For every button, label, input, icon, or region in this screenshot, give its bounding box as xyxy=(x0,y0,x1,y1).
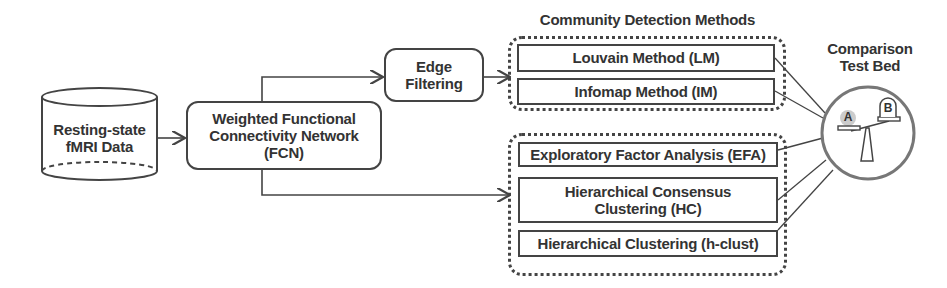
fcn-node: Weighted Functional Connectivity Network… xyxy=(186,101,382,170)
comparison-title-line2: Test Bed xyxy=(840,57,901,74)
edge-filtering-line1: Edge xyxy=(416,58,452,75)
edge-filtering-line2: Filtering xyxy=(405,75,462,92)
fcn-line1: Weighted Functional xyxy=(212,110,355,127)
data-source-line2: fMRI Data xyxy=(66,138,133,155)
fcn-line2: Connectivity Network xyxy=(209,127,358,144)
scale-label-b: B xyxy=(881,102,895,116)
method-infomap: Infomap Method (IM) xyxy=(517,78,775,105)
fcn-line3: (FCN) xyxy=(264,144,304,161)
edge-filtering-node: Edge Filtering xyxy=(384,48,484,102)
method-hc-line1: Hierarchical Consensus xyxy=(565,183,732,200)
method-hc-line2: Clustering (HC) xyxy=(595,200,702,217)
scale-label-a: A xyxy=(841,111,855,125)
edge-fcn-to-other-methods xyxy=(262,170,510,195)
data-source-label: Resting-state fMRI Data xyxy=(42,110,157,166)
method-hclust: Hierarchical Clustering (h-clust) xyxy=(518,230,778,257)
comparison-title-line1: Comparison xyxy=(827,40,913,57)
community-detection-title: Community Detection Methods xyxy=(505,9,790,31)
method-louvain: Louvain Method (LM) xyxy=(517,44,775,72)
data-source-line1: Resting-state xyxy=(53,121,145,138)
edge-fcn-to-filtering xyxy=(262,77,383,101)
comparison-title: Comparison Test Bed xyxy=(815,36,925,78)
method-efa: Exploratory Factor Analysis (EFA) xyxy=(518,142,778,167)
method-hc: Hierarchical Consensus Clustering (HC) xyxy=(518,177,778,223)
